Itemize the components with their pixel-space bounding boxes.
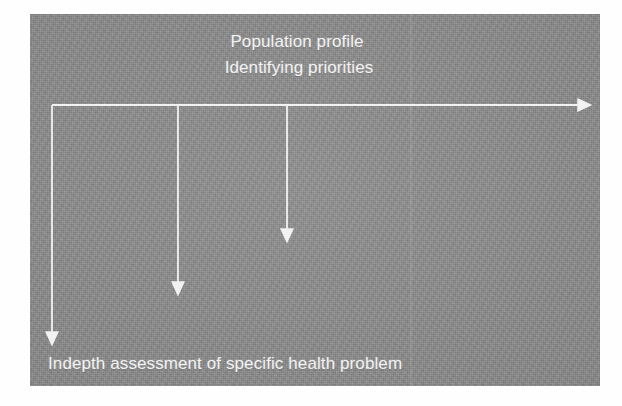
page-root: Population profile Identifying prioritie… bbox=[0, 0, 622, 406]
title-line-1: Population profile bbox=[30, 32, 600, 52]
scanned-slide-panel: Population profile Identifying prioritie… bbox=[30, 14, 600, 386]
title-line-2: Identifying priorities bbox=[30, 58, 600, 78]
bottom-caption: Indepth assessment of specific health pr… bbox=[48, 354, 402, 374]
